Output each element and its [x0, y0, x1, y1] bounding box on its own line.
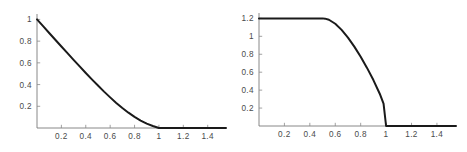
x-tick-label: 0.4	[79, 132, 92, 141]
data-curve-left	[37, 19, 226, 128]
x-tick-label: 0.4	[304, 130, 317, 139]
y-tick-marks	[259, 18, 262, 108]
axes-right	[259, 13, 456, 126]
plot-left: 0.20.40.60.811.21.4 0.20.40.60.81	[0, 0, 234, 152]
y-tick-label: 1	[27, 15, 32, 24]
plot-right: 0.20.40.60.811.21.4 0.20.40.60.811.2	[234, 0, 467, 152]
x-tick-label: 0.8	[128, 132, 141, 141]
y-tick-label: 1.2	[241, 14, 254, 23]
axes-left	[37, 14, 226, 128]
y-tick-label: 0.6	[19, 59, 32, 68]
y-tick-label: 0.6	[241, 68, 254, 77]
x-tick-label: 0.2	[55, 132, 68, 141]
data-curve-right	[259, 18, 456, 126]
y-tick-label: 0.4	[241, 86, 254, 95]
y-tick-label: 0.4	[19, 81, 32, 90]
x-tick-labels: 0.20.40.60.811.21.4	[278, 130, 443, 139]
chart-panel-left: 0.20.40.60.811.21.4 0.20.40.60.81	[0, 0, 234, 152]
x-tick-label: 0.6	[329, 130, 342, 139]
figure-container: 0.20.40.60.811.21.4 0.20.40.60.81 0.20.4…	[0, 0, 467, 152]
x-tick-label: 1.2	[405, 130, 418, 139]
x-tick-label: 1	[156, 132, 161, 141]
x-tick-labels: 0.20.40.60.811.21.4	[55, 132, 214, 141]
y-tick-label: 1	[249, 32, 254, 41]
x-tick-label: 0.2	[278, 130, 291, 139]
chart-panel-right: 0.20.40.60.811.21.4 0.20.40.60.811.2	[234, 0, 467, 152]
y-tick-label: 0.8	[241, 50, 254, 59]
y-tick-labels: 0.20.40.60.811.2	[241, 14, 254, 113]
y-tick-label: 0.2	[19, 102, 32, 111]
y-tick-marks	[37, 19, 40, 106]
x-tick-label: 0.6	[104, 132, 117, 141]
x-tick-label: 1.2	[177, 132, 190, 141]
y-tick-labels: 0.20.40.60.81	[19, 15, 32, 111]
x-tick-label: 0.8	[354, 130, 367, 139]
y-tick-label: 0.2	[241, 104, 254, 113]
x-tick-label: 1.4	[201, 132, 214, 141]
x-tick-label: 1	[384, 130, 389, 139]
y-tick-label: 0.8	[19, 37, 32, 46]
x-tick-label: 1.4	[431, 130, 444, 139]
